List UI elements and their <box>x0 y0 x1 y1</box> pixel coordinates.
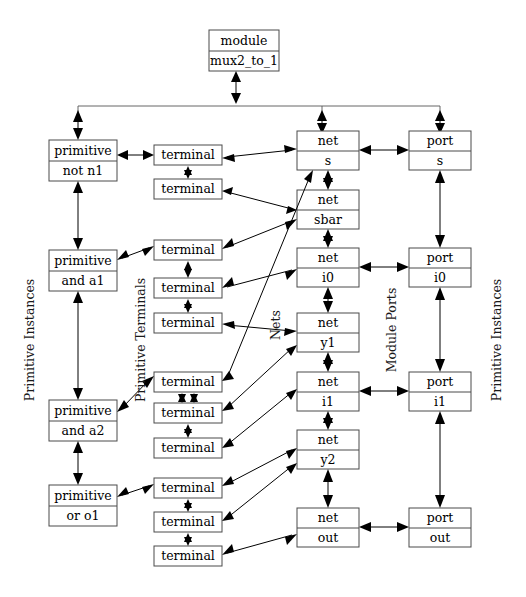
edge-terminal-to-net <box>222 187 297 214</box>
edge-primitive-to-terminal <box>117 484 154 497</box>
edge-terminal-to-net <box>222 145 297 162</box>
edge-port-chain <box>435 170 445 248</box>
edge-primitive-chain-2 <box>73 291 83 400</box>
edge-primitive-to-terminal <box>117 246 154 260</box>
terminal-box: terminal <box>154 478 222 498</box>
edge-primitive-chain-3 <box>73 441 83 485</box>
terminal-box: terminal <box>154 145 222 165</box>
column-label-nets: Nets <box>268 310 283 340</box>
net-name-label: sbar <box>314 212 342 227</box>
edge-primitive-chain-1 <box>73 181 83 250</box>
edge-module-to-bus <box>231 71 241 104</box>
edge-terminal-chain <box>184 299 192 313</box>
net-name-label: i1 <box>322 394 334 409</box>
module-box: module mux2_to_1 <box>209 30 279 71</box>
terminal-label: terminal <box>161 280 215 295</box>
primitive-name-label: and a2 <box>62 423 105 438</box>
edge-net-chain <box>323 170 333 190</box>
edge-terminal-chain <box>178 393 198 403</box>
net-type-label: net <box>318 133 338 148</box>
edge-terminal-chain <box>184 533 192 546</box>
terminal-label: terminal <box>161 374 215 389</box>
edge-port-chain <box>435 411 445 508</box>
module-name-label: mux2_to_1 <box>210 53 278 68</box>
edge-terminal-to-net <box>222 463 297 521</box>
net-name-label: s <box>325 153 331 168</box>
edge-terminal-chain <box>184 424 192 438</box>
terminal-label: terminal <box>161 514 215 529</box>
net-name-label: y1 <box>319 335 335 350</box>
edge-terminal-chain <box>184 499 192 512</box>
terminal-box: terminal <box>154 240 222 260</box>
terminal-box: terminal <box>154 278 222 298</box>
edge-primitive-to-terminal <box>117 150 154 160</box>
primitive-type-label: primitive <box>54 253 111 268</box>
net-box-i1: net i1 <box>297 372 359 411</box>
edge-net-chain <box>323 352 333 372</box>
port-box-out: port out <box>409 508 471 547</box>
edge-bus-to-net-s <box>317 110 327 134</box>
port-box-s: port s <box>409 131 471 170</box>
module-type-label: module <box>221 33 268 48</box>
port-box-i1: port i1 <box>409 372 471 411</box>
column-label-primitive-terminals: Primitive Terminals <box>133 278 148 402</box>
net-type-label: net <box>318 432 338 447</box>
terminal-label: terminal <box>161 242 215 257</box>
primitive-type-label: primitive <box>54 488 111 503</box>
edge-terminal-to-net <box>222 448 297 486</box>
net-box-y2: net y2 <box>297 430 359 469</box>
edge-terminal-chain <box>184 261 192 278</box>
bus-line <box>78 106 440 112</box>
net-type-label: net <box>318 250 338 265</box>
terminal-box: terminal <box>154 313 222 333</box>
column-label-module-ports: Module Ports <box>384 288 399 373</box>
net-box-out: net out <box>297 508 359 547</box>
port-type-label: port <box>427 510 454 525</box>
terminal-box: terminal <box>154 179 222 199</box>
port-type-label: port <box>427 250 454 265</box>
port-type-label: port <box>427 133 454 148</box>
primitive-box-or-o1: primitive or o1 <box>49 485 117 526</box>
net-type-label: net <box>318 374 338 389</box>
port-type-label: port <box>427 374 454 389</box>
edge-net-to-port-i1 <box>359 386 409 396</box>
edge-net-chain <box>323 229 333 248</box>
port-name-label: out <box>430 530 451 545</box>
net-box-s: net s <box>297 131 359 170</box>
primitive-type-label: primitive <box>54 143 111 158</box>
net-box-y1: net y1 <box>297 313 359 352</box>
port-name-label: s <box>437 153 443 168</box>
port-name-label: i1 <box>434 394 446 409</box>
edge-net-chain <box>323 287 333 313</box>
edge-net-to-port-s <box>359 145 409 155</box>
port-name-label: i0 <box>434 270 446 285</box>
primitive-box-not-n1: primitive not n1 <box>49 140 117 181</box>
column-label-primitive-instances-left: Primitive Instances <box>22 279 37 401</box>
primitive-name-label: not n1 <box>63 163 104 178</box>
terminal-box: terminal <box>154 512 222 532</box>
terminal-box: terminal <box>154 438 222 458</box>
net-type-label: net <box>318 315 338 330</box>
primitive-box-and-a1: primitive and a1 <box>49 250 117 291</box>
net-box-sbar: net sbar <box>297 190 359 229</box>
terminal-label: terminal <box>161 147 215 162</box>
terminal-box: terminal <box>154 403 222 423</box>
net-name-label: out <box>318 530 339 545</box>
column-label-primitive-instances-right: Primitive Instances <box>489 279 504 401</box>
terminal-box: terminal <box>154 372 222 392</box>
terminal-label: terminal <box>161 440 215 455</box>
terminal-box: terminal <box>154 546 222 566</box>
edge-terminal-to-net <box>222 534 297 555</box>
terminal-label: terminal <box>161 480 215 495</box>
edge-bus-to-port-s <box>435 110 445 134</box>
edge-net-chain <box>323 469 333 508</box>
edge-terminal-to-net <box>222 389 297 448</box>
terminal-label: terminal <box>161 405 215 420</box>
terminal-label: terminal <box>161 181 215 196</box>
edge-terminal-to-net <box>222 269 297 288</box>
net-type-label: net <box>318 510 338 525</box>
net-box-i0: net i0 <box>297 248 359 287</box>
primitive-name-label: and a1 <box>62 273 105 288</box>
verilog-object-model-diagram: module mux2_to_1 primitive not n1 <box>0 0 526 597</box>
terminal-label: terminal <box>161 548 215 563</box>
